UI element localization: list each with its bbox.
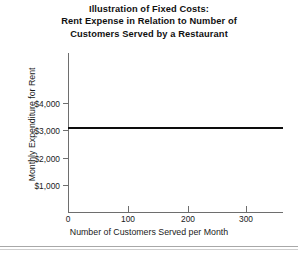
y-tick-label-3000: $3,000 <box>14 127 60 135</box>
x-tick-label-100: 100 <box>108 215 148 223</box>
y-tick-label-4000: $4,000 <box>14 100 60 108</box>
y-tick-4000 <box>63 103 69 104</box>
y-tick-label-2000: $2,000 <box>14 155 60 163</box>
footer-divider-secondary <box>0 249 298 250</box>
footer-divider <box>0 246 298 247</box>
y-axis-line <box>68 53 69 213</box>
y-tick-label-1000: $1,000 <box>14 182 60 190</box>
x-tick-100 <box>128 206 129 212</box>
y-axis-title: Monthly Expenditure for Rent <box>28 44 37 204</box>
x-tick-200 <box>188 206 189 212</box>
x-tick-label-300: 300 <box>226 215 266 223</box>
x-tick-label-0: 0 <box>48 215 88 223</box>
x-axis-line <box>68 212 283 213</box>
y-tick-3000 <box>63 130 69 131</box>
x-tick-label-200: 200 <box>168 215 208 223</box>
x-tick-300 <box>246 206 247 212</box>
y-tick-2000 <box>63 158 69 159</box>
chart-plot-area: $4,000 $3,000 $2,000 $1,000 0 100 200 30… <box>0 0 298 256</box>
x-tick-0 <box>68 206 69 212</box>
fixed-cost-series-line <box>68 127 283 129</box>
y-tick-1000 <box>63 185 69 186</box>
x-axis-title: Number of Customers Served per Month <box>0 228 298 237</box>
